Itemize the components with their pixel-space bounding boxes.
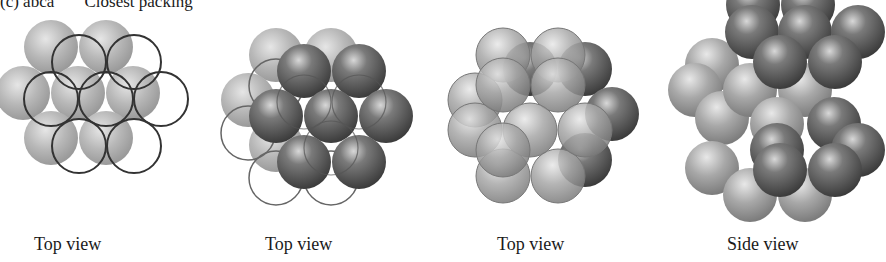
packing-diagram (0, 0, 886, 262)
panel-2-top-view (221, 28, 413, 205)
caption-panel-2: Top view (265, 234, 332, 255)
panel-3-top-view (448, 28, 639, 203)
caption-panel-3: Top view (497, 234, 564, 255)
panel-1-top-view (0, 20, 188, 173)
caption-panel-4: Side view (727, 234, 799, 255)
caption-panel-1: Top view (34, 234, 101, 255)
panel-4-side-view (668, 0, 885, 222)
